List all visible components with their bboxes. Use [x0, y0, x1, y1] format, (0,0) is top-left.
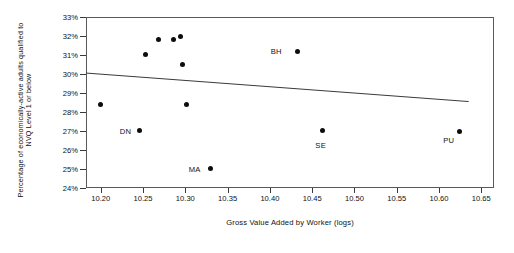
- x-axis-title: Gross Value Added by Worker (logs): [86, 218, 494, 227]
- x-axis-tick-label: 10.55: [377, 194, 417, 203]
- x-axis-tick: [270, 188, 271, 193]
- x-axis-tick: [354, 188, 355, 193]
- x-axis-tick-label: 10.50: [334, 194, 374, 203]
- y-axis-tick-label: 27%: [44, 127, 78, 136]
- y-axis-title: Percentage of economically-active adults…: [17, 15, 47, 205]
- x-axis-tick-label: 10.65: [461, 194, 501, 203]
- x-axis-tick: [481, 188, 482, 193]
- y-axis-tick-label: 28%: [44, 108, 78, 117]
- x-axis-tick-label: 10.40: [250, 194, 290, 203]
- x-axis-tick: [228, 188, 229, 193]
- x-axis-tick: [439, 188, 440, 193]
- y-axis-title-line-2: NVQ Level 1 or below: [25, 15, 33, 205]
- y-axis-tick-label: 26%: [44, 146, 78, 155]
- y-axis-tick-label: 31%: [44, 51, 78, 60]
- y-axis-tick-label: 33%: [44, 13, 78, 22]
- trendline: [86, 17, 494, 188]
- x-axis-tick: [397, 188, 398, 193]
- x-axis-tick-label: 10.20: [81, 194, 121, 203]
- y-axis-tick-label: 32%: [44, 32, 78, 41]
- x-axis-tick-label: 10.45: [292, 194, 332, 203]
- y-axis-tick-label: 29%: [44, 89, 78, 98]
- y-axis-tick-label: 30%: [44, 70, 78, 79]
- x-axis-tick: [101, 188, 102, 193]
- x-axis-tick-label: 10.25: [123, 194, 163, 203]
- x-axis-tick-label: 10.60: [419, 194, 459, 203]
- scatter-chart-figure: Percentage of economically-active adults…: [0, 0, 514, 253]
- y-axis-tick-label: 25%: [44, 165, 78, 174]
- x-axis-tick-label: 10.30: [165, 194, 205, 203]
- x-axis-tick-label: 10.35: [208, 194, 248, 203]
- y-axis-tick: [80, 188, 86, 189]
- x-axis-tick: [143, 188, 144, 193]
- y-axis-tick-label: 24%: [44, 184, 78, 193]
- x-axis-tick: [185, 188, 186, 193]
- x-axis-tick: [312, 188, 313, 193]
